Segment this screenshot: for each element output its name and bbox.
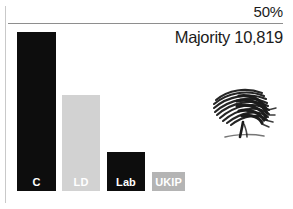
- bar-lab: Lab: [107, 152, 145, 191]
- threshold-line-50-percent: [8, 23, 283, 24]
- bar-label-ukip: UKIP: [152, 177, 185, 188]
- bar-c: C: [17, 32, 56, 191]
- bar-label-c: C: [17, 177, 56, 188]
- bar-ld: LD: [62, 95, 100, 191]
- axis-vertical-line: [5, 6, 6, 203]
- bar-label-lab: Lab: [107, 177, 145, 188]
- bar-label-ld: LD: [62, 177, 100, 188]
- threshold-label: 50%: [254, 3, 283, 20]
- election-bar-chart: 50% Majority 10,819 CLDLabUKIP: [0, 0, 293, 209]
- conservative-oak-tree-logo: [206, 84, 280, 142]
- bar-ukip: UKIP: [152, 172, 185, 191]
- majority-label: Majority 10,819: [175, 28, 283, 47]
